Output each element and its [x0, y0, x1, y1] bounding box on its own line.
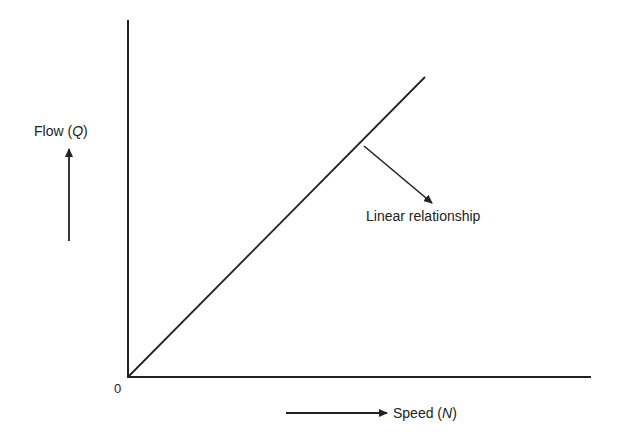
linear-relationship-line	[128, 77, 425, 377]
diagram-graphics	[0, 0, 617, 443]
y-axis-label-suffix: )	[83, 123, 88, 139]
origin-label: 0	[114, 381, 121, 397]
x-axis-label-prefix: Speed (	[393, 405, 442, 421]
x-axis-label-suffix: )	[452, 405, 457, 421]
x-axis-label-variable: N	[442, 405, 452, 421]
y-axis-label-prefix: Flow (	[34, 123, 72, 139]
y-axis-label: Flow (Q)	[34, 123, 88, 139]
y-axis-label-variable: Q	[72, 123, 83, 139]
flow-speed-diagram: Flow (Q) Speed (N) 0 Linear relationship	[0, 0, 617, 443]
x-axis-label: Speed (N)	[393, 405, 457, 421]
annotation-label: Linear relationship	[366, 208, 480, 224]
annotation-arrow-icon	[364, 146, 432, 203]
